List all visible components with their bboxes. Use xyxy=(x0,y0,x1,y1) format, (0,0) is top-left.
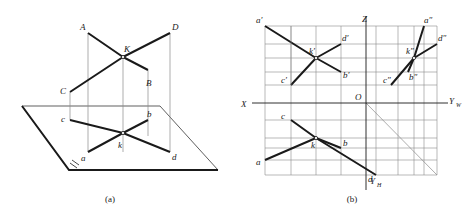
point-k-dprime-marker xyxy=(412,56,415,59)
label-k: k xyxy=(118,140,123,150)
label-a-dprime: a″ xyxy=(424,15,433,25)
line-ab-prime xyxy=(265,26,341,72)
caption-b: (b) xyxy=(347,194,358,204)
label-b: b xyxy=(147,109,152,119)
label-d-dprime: d″ xyxy=(438,33,447,43)
point-k-marker xyxy=(121,131,124,134)
line-CD-space xyxy=(70,33,170,92)
label-K: K xyxy=(123,44,131,54)
label-b-dprime: b″ xyxy=(409,72,418,82)
label-a: a xyxy=(81,153,86,163)
label-k-prime: k′ xyxy=(309,46,316,56)
miter-line-45 xyxy=(366,103,437,175)
line-AB-space xyxy=(88,33,148,70)
label-C: C xyxy=(60,86,67,96)
axis-label-X: X xyxy=(240,99,247,109)
label-d: d xyxy=(172,152,177,162)
v-projection-lines xyxy=(265,26,341,85)
label-B: B xyxy=(146,78,152,88)
label-k-h: k xyxy=(311,140,316,150)
caption-a: (a) xyxy=(105,194,115,204)
figure-a: A B C D K a b c d k (a) xyxy=(22,22,218,204)
label-k-dprime: k″ xyxy=(406,46,414,56)
technical-drawing: A B C D K a b c d k (a) xyxy=(0,0,464,210)
label-c-prime: c′ xyxy=(281,75,288,85)
label-c-dprime: c″ xyxy=(383,75,391,85)
figure-b: X Z Y W Y H O a′ b′ c′ d′ k′ a″ b″ c″ d″… xyxy=(240,14,462,204)
label-D: D xyxy=(171,22,179,32)
line-ab-h xyxy=(265,138,341,160)
label-a-h: a xyxy=(256,157,261,167)
label-a-prime: a′ xyxy=(256,15,264,25)
label-A: A xyxy=(79,22,86,32)
projection-plane-a xyxy=(22,106,218,170)
figure-canvas: A B C D K a b c d k (a) xyxy=(0,0,464,210)
label-d-h: d xyxy=(368,174,373,184)
label-c: c xyxy=(61,114,65,124)
point-K-marker xyxy=(121,55,124,58)
axis-label-O: O xyxy=(355,92,362,102)
label-d-prime: d′ xyxy=(342,33,350,43)
axis-label-YH-sub: H xyxy=(376,182,382,188)
label-b-h: b xyxy=(343,138,348,148)
plane-outline xyxy=(22,106,218,170)
h-projection-lines xyxy=(265,120,376,175)
axis-label-YW: Y xyxy=(449,96,455,106)
axis-label-Z: Z xyxy=(362,14,368,24)
line-cd-h xyxy=(291,120,376,175)
plane-corner-hatch xyxy=(70,160,79,168)
axis-label-YW-sub: W xyxy=(456,102,462,108)
point-k-prime-marker xyxy=(314,56,317,59)
label-c-h: c xyxy=(281,111,285,121)
label-b-prime: b′ xyxy=(343,70,351,80)
space-lines-a xyxy=(70,33,170,92)
